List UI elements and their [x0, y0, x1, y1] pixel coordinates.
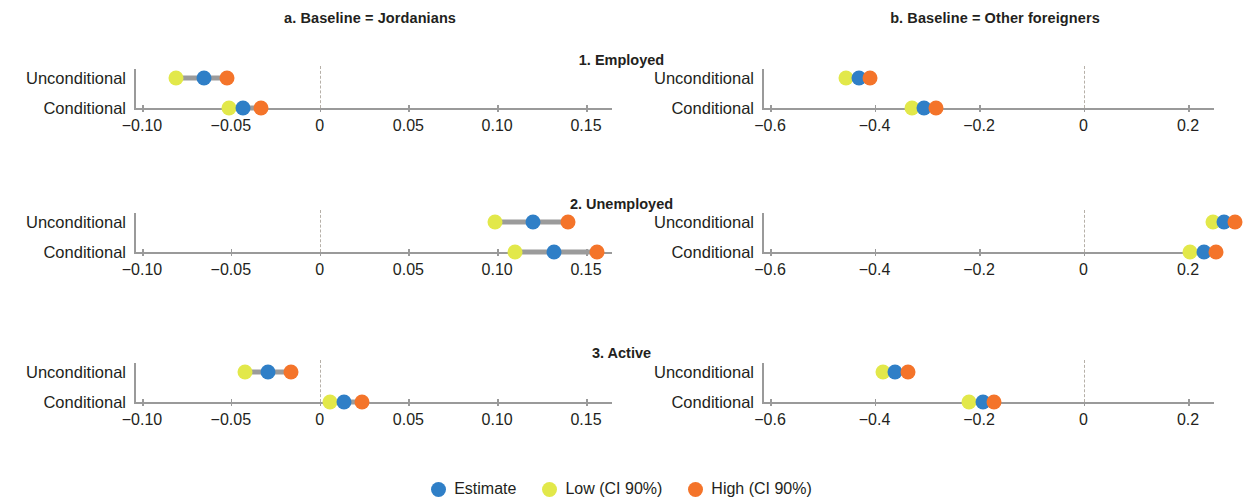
legend-label-estimate: Estimate — [454, 480, 516, 498]
panel-3b: UnconditionalConditional−0.6−0.4−0.200.2 — [620, 360, 1243, 438]
axis-line — [134, 402, 612, 404]
data-point-high — [901, 365, 916, 380]
axis-tick — [408, 399, 410, 406]
legend-swatch-high — [688, 482, 703, 497]
axis-tick-label: 0.10 — [482, 411, 513, 429]
axis-tick — [1188, 105, 1190, 112]
axis-tick-label: −0.6 — [754, 261, 786, 279]
panel-1b: UnconditionalConditional−0.6−0.4−0.200.2 — [620, 66, 1243, 144]
axis-line — [762, 108, 1214, 110]
axis-tick-label: −0.6 — [754, 411, 786, 429]
axis-tick-label: −0.6 — [754, 117, 786, 135]
data-point-estimate — [525, 215, 540, 230]
legend-swatch-low — [542, 482, 557, 497]
panel-2b: UnconditionalConditional−0.6−0.4−0.200.2 — [620, 210, 1243, 288]
axis-tick-label: 0 — [1079, 261, 1088, 279]
data-point-low — [323, 395, 338, 410]
forest-plot-figure: a. Baseline = Jordanians b. Baseline = O… — [0, 0, 1243, 502]
axis-tick-label: 0.05 — [393, 411, 424, 429]
axis-tick — [408, 105, 410, 112]
axis-spine — [762, 69, 764, 108]
axis-tick-label: −0.4 — [859, 117, 891, 135]
panel-2a: UnconditionalConditional−0.10−0.0500.050… — [0, 210, 621, 288]
category-label-unconditional: Unconditional — [0, 70, 126, 87]
axis-tick — [231, 399, 233, 406]
axis-tick — [979, 249, 981, 256]
axis-tick-label: 0 — [1079, 411, 1088, 429]
axis-line — [762, 252, 1214, 254]
axis-tick — [875, 249, 877, 256]
axis-tick — [875, 399, 877, 406]
legend-label-high: High (CI 90%) — [711, 480, 811, 498]
data-point-high — [1209, 245, 1224, 260]
data-point-high — [986, 395, 1001, 410]
axis-spine — [762, 213, 764, 252]
column-title-a: a. Baseline = Jordanians — [120, 10, 620, 26]
zero-reference-line — [320, 66, 321, 108]
axis-spine — [134, 69, 136, 108]
axis-tick — [497, 249, 499, 256]
axis-tick — [1188, 399, 1190, 406]
axis-tick — [770, 105, 772, 112]
panel-3a: UnconditionalConditional−0.10−0.0500.050… — [0, 360, 621, 438]
axis-tick — [586, 399, 588, 406]
data-point-estimate — [236, 101, 251, 116]
axis-tick — [231, 249, 233, 256]
axis-tick-label: −0.10 — [122, 261, 162, 279]
data-point-low — [238, 365, 253, 380]
data-point-high — [355, 395, 370, 410]
axis-tick-label: −0.10 — [122, 411, 162, 429]
data-point-high — [561, 215, 576, 230]
axis-tick-label: 0.2 — [1177, 411, 1199, 429]
data-point-low — [488, 215, 503, 230]
axis-tick-label: 0.10 — [482, 117, 513, 135]
axis-tick-label: 0.10 — [482, 261, 513, 279]
legend-swatch-estimate — [431, 482, 446, 497]
axis-tick-label: 0.05 — [393, 117, 424, 135]
zero-reference-line — [1084, 210, 1085, 252]
data-point-estimate — [337, 395, 352, 410]
axis-tick — [586, 105, 588, 112]
legend-item-estimate: Estimate — [431, 480, 516, 498]
legend-item-high: High (CI 90%) — [688, 480, 811, 498]
row-title-active: 3. Active — [0, 345, 1243, 361]
category-label-conditional: Conditional — [0, 244, 126, 261]
data-point-high — [253, 101, 268, 116]
axis-tick-label: 0 — [315, 117, 324, 135]
zero-reference-line — [320, 360, 321, 402]
axis-tick-label: 0.15 — [570, 411, 601, 429]
zero-reference-line — [1084, 66, 1085, 108]
axis-spine — [134, 363, 136, 402]
axis-tick — [979, 105, 981, 112]
data-point-high — [863, 71, 878, 86]
data-point-low — [222, 101, 237, 116]
category-label-conditional: Conditional — [0, 394, 126, 411]
data-point-estimate — [547, 245, 562, 260]
zero-reference-line — [1084, 360, 1085, 402]
category-label-unconditional: Unconditional — [620, 70, 754, 87]
legend-item-low: Low (CI 90%) — [542, 480, 662, 498]
category-label-conditional: Conditional — [620, 244, 754, 261]
axis-tick-label: 0 — [315, 411, 324, 429]
axis-tick — [142, 249, 144, 256]
axis-tick-label: 0.15 — [570, 117, 601, 135]
axis-tick-label: −0.2 — [963, 117, 995, 135]
axis-tick-label: 0.2 — [1177, 261, 1199, 279]
axis-tick — [142, 399, 144, 406]
data-point-high — [220, 71, 235, 86]
axis-tick-label: −0.4 — [859, 261, 891, 279]
axis-tick-label: −0.05 — [211, 117, 251, 135]
axis-tick — [142, 105, 144, 112]
axis-tick — [497, 105, 499, 112]
category-label-unconditional: Unconditional — [0, 214, 126, 231]
axis-tick — [770, 399, 772, 406]
axis-tick-label: 0 — [1079, 117, 1088, 135]
data-point-high — [589, 245, 604, 260]
axis-tick — [875, 105, 877, 112]
axis-tick — [770, 249, 772, 256]
axis-tick — [497, 399, 499, 406]
axis-tick-label: 0.05 — [393, 261, 424, 279]
data-point-low — [1182, 245, 1197, 260]
axis-tick-label: −0.2 — [963, 411, 995, 429]
zero-reference-line — [320, 210, 321, 252]
